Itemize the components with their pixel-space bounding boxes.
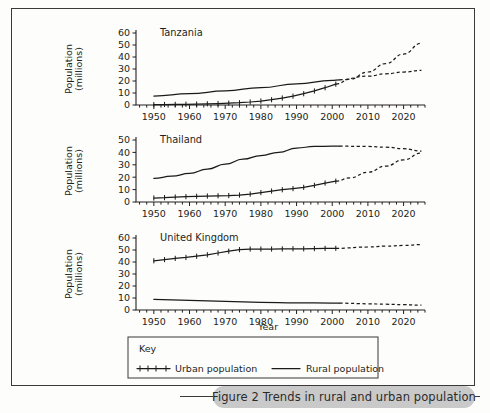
y-tick-label: 60	[118, 27, 130, 38]
x-tick-label: 2010	[356, 208, 380, 219]
chart-panel: 0102030405019501960197019801990200020102…	[63, 134, 425, 219]
x-tick-label: 2010	[356, 316, 380, 327]
y-tick-label: 40	[118, 256, 130, 267]
x-tick-label: 1950	[142, 111, 166, 122]
y-axis-title: Population(millions)	[63, 249, 84, 299]
x-tick-label: 1970	[213, 208, 237, 219]
y-tick-label: 0	[124, 99, 130, 110]
x-tick-label: 1980	[249, 208, 273, 219]
x-tick-label: 2010	[356, 111, 380, 122]
figure-caption-banner: Figure 2 Trends in rural and urban popul…	[213, 386, 475, 408]
y-tick-label: 10	[118, 292, 130, 303]
panel-axes	[136, 235, 425, 310]
data-series-line	[154, 299, 340, 303]
y-tick-label: 0	[124, 196, 130, 207]
y-tick-label: 30	[118, 268, 130, 279]
legend-entry-urban: Urban population	[137, 363, 257, 374]
panel-title: Thailand	[159, 134, 202, 145]
data-series-line	[154, 146, 340, 178]
x-tick-label: 1990	[284, 111, 308, 122]
y-axis-title: Population(millions)	[63, 44, 84, 94]
x-tick-label: 1980	[249, 111, 273, 122]
x-tick-label: 2000	[320, 111, 344, 122]
x-tick-label: 1990	[284, 316, 308, 327]
data-series-line	[154, 80, 340, 96]
legend-urban-label: Urban population	[175, 363, 257, 374]
x-tick-label: 1990	[284, 208, 308, 219]
x-tick-label: 1960	[177, 208, 201, 219]
figure-container: 0102030405060195019601970198019902000201…	[0, 0, 490, 413]
y-tick-label: 50	[118, 244, 130, 255]
y-axis-title: Population(millions)	[63, 146, 84, 196]
legend-title: Key	[139, 343, 157, 354]
data-series-line	[154, 248, 336, 260]
y-axis-title-line2: (millions)	[73, 149, 84, 193]
data-series-line	[336, 153, 422, 181]
y-tick-label: 20	[118, 172, 130, 183]
y-tick-label: 50	[118, 39, 130, 50]
x-tick-label: 2020	[391, 316, 415, 327]
y-axis-title-line2: (millions)	[73, 252, 84, 296]
y-tick-label: 10	[118, 184, 130, 195]
x-tick-label: 1950	[142, 316, 166, 327]
data-series-line	[339, 70, 421, 79]
panels-group: 0102030405060195019601970198019902000201…	[63, 27, 425, 327]
y-tick-label: 20	[118, 280, 130, 291]
chart-panel: 0102030405060195019601970198019902000201…	[63, 232, 425, 327]
y-tick-label: 40	[118, 147, 130, 158]
panel-title: Tanzania	[159, 27, 203, 38]
chart-panel: 0102030405060195019601970198019902000201…	[63, 27, 425, 122]
x-tick-label: 1960	[177, 316, 201, 327]
y-tick-label: 30	[118, 63, 130, 74]
x-axis-title: Year	[257, 321, 278, 332]
y-tick-label: 50	[118, 134, 130, 145]
chart-legend: Key Urban population Rural population	[128, 337, 384, 378]
panel-title: United Kingdom	[160, 232, 239, 243]
x-tick-label: 1970	[213, 111, 237, 122]
x-tick-label: 1970	[213, 316, 237, 327]
data-series-line	[339, 146, 421, 151]
y-tick-label: 0	[124, 304, 130, 315]
x-tick-label: 2000	[320, 316, 344, 327]
y-tick-label: 60	[118, 232, 130, 243]
legend-rural-label: Rural population	[306, 363, 384, 374]
y-tick-label: 40	[118, 51, 130, 62]
figure-caption-text: Figure 2 Trends in rural and urban popul…	[212, 390, 476, 404]
y-tick-label: 10	[118, 87, 130, 98]
chart-canvas: 0102030405060195019601970198019902000201…	[0, 0, 490, 413]
y-tick-label: 30	[118, 159, 130, 170]
x-tick-label: 1960	[177, 111, 201, 122]
legend-entry-rural: Rural population	[272, 363, 384, 374]
x-tick-label: 2000	[320, 208, 344, 219]
y-tick-label: 20	[118, 75, 130, 86]
y-axis-title-line2: (millions)	[73, 47, 84, 91]
x-tick-label: 1950	[142, 208, 166, 219]
x-tick-label: 2020	[391, 208, 415, 219]
data-series-line	[336, 43, 422, 84]
x-tick-label: 2020	[391, 111, 415, 122]
data-series-line	[336, 245, 422, 249]
data-series-line	[154, 181, 336, 198]
data-series-line	[339, 303, 421, 305]
